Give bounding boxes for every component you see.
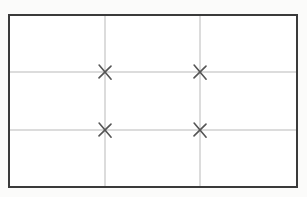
composition-frame bbox=[9, 15, 297, 187]
rule-of-thirds-diagram: Top left intersectionTop right intersect… bbox=[0, 0, 307, 197]
composition-grid-canvas: Top left intersectionTop right intersect… bbox=[0, 0, 307, 197]
